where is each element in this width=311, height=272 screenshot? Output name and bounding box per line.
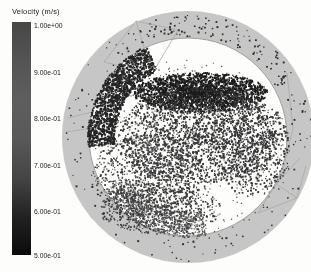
colorbar-tick-label: 8.00e-01 bbox=[34, 115, 94, 122]
colorbar-tick-label: 9.00e-01 bbox=[34, 68, 94, 75]
colorbar-tick-label: 6.00e-01 bbox=[34, 208, 94, 215]
velocity-figure: Velocity (m/s) 1.00e+00 9.00e-01 8.00e-0… bbox=[0, 0, 311, 272]
legend-title: Velocity (m/s) bbox=[12, 7, 60, 16]
colorbar-tick-label: 1.00e+00 bbox=[34, 22, 94, 29]
colorbar-legend: Velocity (m/s) 1.00e+00 9.00e-01 8.00e-0… bbox=[0, 0, 90, 272]
colorbar-gradient bbox=[12, 22, 31, 255]
colorbar-tick-label: 7.00e-01 bbox=[34, 161, 94, 168]
colorbar-tick-label: 5.00e-01 bbox=[34, 252, 94, 259]
